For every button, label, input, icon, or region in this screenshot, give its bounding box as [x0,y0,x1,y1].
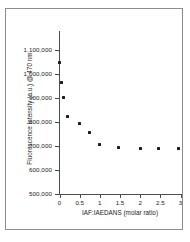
x-tick-label: 2 [132,199,148,206]
x-axis-title: IAF:IAEDANS (molar ratio) [55,209,185,217]
x-tick-label: 3 [173,199,189,206]
x-tick-mark [60,194,61,198]
x-tick-label: 0.5 [72,199,88,206]
data-point [98,143,101,146]
data-point [60,81,63,84]
data-point [117,146,120,149]
scatter-plot: 500,000600,000700,000800,000900,0001,000… [0,0,190,242]
x-tick-label: 1 [92,199,108,206]
y-tick-mark [55,146,59,147]
x-tick-mark [181,194,182,198]
y-tick-mark [55,122,59,123]
y-axis-line [59,31,60,195]
x-tick-label: 0 [52,199,68,206]
x-tick-label: 1.5 [112,199,128,206]
x-tick-label: 2.5 [152,199,168,206]
data-point [139,147,142,150]
data-point [88,131,91,134]
x-tick-mark [100,194,101,198]
data-point [78,122,81,125]
x-tick-mark [160,194,161,198]
y-tick-mark [55,74,59,75]
x-tick-mark [140,194,141,198]
y-tick-label: 500,000 [29,191,52,197]
data-point [157,147,160,150]
x-tick-mark [80,194,81,198]
figure-container: 500,000600,000700,000800,000900,0001,000… [0,0,190,242]
y-tick-mark [55,170,59,171]
y-tick-mark [55,98,59,99]
data-point [66,115,69,118]
y-tick-mark [55,194,59,195]
data-point [62,96,65,99]
y-tick-mark [55,50,59,51]
data-point [58,61,61,64]
x-tick-mark [120,194,121,198]
data-point [177,147,180,150]
y-axis-title: Fluorescence Intensity (a.u.) @ 470 nm [26,34,33,184]
